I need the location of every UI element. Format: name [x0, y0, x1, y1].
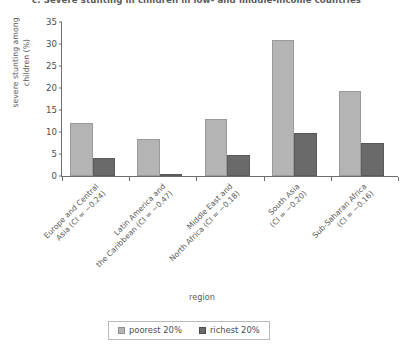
- x-axis-title: region: [0, 292, 404, 302]
- chart-legend: poorest 20%richest 20%: [108, 321, 270, 340]
- y-tick-label: 25: [46, 61, 57, 71]
- y-tick-label: 20: [46, 83, 57, 93]
- x-tick-mark: [331, 177, 332, 181]
- x-category-label: South Asia(CI = −0.20): [182, 182, 310, 310]
- bar-poorest: [339, 91, 362, 176]
- y-tick-mark: [59, 110, 63, 111]
- bar-richest: [93, 158, 116, 176]
- y-tick-label: 0: [52, 171, 57, 181]
- bar-richest: [361, 143, 384, 176]
- x-category-label: Sub-Saharan Africa(CI = −0.16): [249, 182, 377, 310]
- x-tick-mark: [264, 177, 265, 181]
- y-tick-mark: [59, 22, 63, 23]
- x-tick-mark: [62, 177, 63, 181]
- y-tick-mark: [59, 154, 63, 155]
- x-category-label: Latin America andthe Caribbean (CI = −0.…: [48, 182, 176, 310]
- bar-poorest: [137, 139, 160, 176]
- legend-swatch-poorest: [118, 327, 125, 334]
- y-tick-label: 35: [46, 17, 57, 27]
- legend-item[interactable]: poorest 20%: [118, 325, 182, 335]
- y-tick-label: 30: [46, 39, 57, 49]
- x-category-label: Middle East andNorth Africa (CI = −0.18): [115, 182, 243, 310]
- legend-item[interactable]: richest 20%: [199, 325, 260, 335]
- y-tick-mark: [59, 88, 63, 89]
- chart-figure: c. Severe stunting in children in low- a…: [0, 0, 404, 355]
- y-tick-label: 5: [52, 149, 57, 159]
- legend-label: poorest 20%: [129, 325, 182, 335]
- x-tick-mark: [398, 177, 399, 181]
- y-tick-label: 10: [46, 127, 57, 137]
- legend-swatch-richest: [199, 327, 206, 334]
- y-axis-title-line: children (%): [21, 0, 32, 128]
- y-tick-mark: [59, 44, 63, 45]
- bar-poorest: [70, 123, 93, 176]
- y-axis-title-line: severe stunting among: [11, 0, 22, 128]
- x-tick-mark: [129, 177, 130, 181]
- bar-poorest: [272, 40, 295, 176]
- bar-poorest: [205, 119, 228, 176]
- bar-richest: [160, 174, 183, 176]
- plot-area: 05101520253035: [62, 22, 398, 176]
- bar-richest: [227, 155, 250, 176]
- bar-richest: [294, 133, 317, 176]
- y-tick-label: 15: [46, 105, 57, 115]
- x-tick-mark: [196, 177, 197, 181]
- x-axis-line: [61, 176, 398, 177]
- y-axis-title: severe stunting amongchildren (%): [11, 0, 32, 128]
- y-tick-mark: [59, 66, 63, 67]
- legend-label: richest 20%: [210, 325, 260, 335]
- x-category-label-line: Sub-Saharan Africa: [249, 182, 369, 302]
- chart-title: c. Severe stunting in children in low- a…: [32, 0, 404, 5]
- y-tick-mark: [59, 132, 63, 133]
